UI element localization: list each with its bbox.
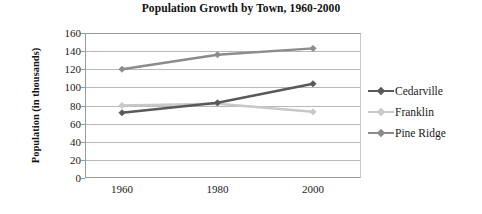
x-tick-label: 1960 [92,183,152,195]
legend-diamond-icon [377,128,385,136]
legend-label: Pine Ridge [394,127,446,139]
legend-label: Cedarville [394,85,443,97]
legend-diamond-icon [377,86,385,94]
legend-swatch-icon [368,85,394,97]
chart-legend: CedarvilleFranklinPine Ridge [368,80,482,143]
legend-swatch-icon [368,106,394,118]
data-point-marker [119,102,125,108]
data-point-marker [310,81,316,87]
data-point-marker [214,52,220,58]
x-tick-label: 1980 [188,183,248,195]
legend-label: Franklin [394,106,434,118]
legend-diamond-icon [377,107,385,115]
line-chart: Population Growth by Town, 1960-2000 Pop… [0,0,482,214]
legend-item-cedarville[interactable]: Cedarville [368,80,482,101]
x-axis-tick-labels: 196019802000 [85,183,361,203]
legend-swatch-icon [368,127,394,139]
legend-item-pine-ridge[interactable]: Pine Ridge [368,122,482,143]
data-point-marker [310,45,316,51]
data-point-marker [310,109,316,115]
data-point-marker [119,66,125,72]
legend-item-franklin[interactable]: Franklin [368,101,482,122]
x-tick-label: 2000 [283,183,343,195]
data-point-marker [119,110,125,116]
series-pine-ridge [119,45,316,72]
